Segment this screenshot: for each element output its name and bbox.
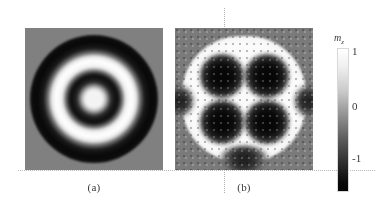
colorbar-tick-max: 1	[352, 46, 358, 57]
panel-a-field	[25, 28, 163, 170]
panel-b-image	[175, 28, 313, 170]
colorbar-title-subscript: z	[341, 38, 344, 46]
panel-a-caption: (a)	[25, 181, 163, 193]
panel-a-image	[25, 28, 163, 170]
spin-grid-highlight-overlay	[175, 28, 313, 170]
concentric-ring-pattern	[30, 35, 158, 163]
colorbar-title: mz	[334, 32, 344, 46]
colorbar-tick-mid: 0	[352, 101, 358, 112]
figure-container: (a) (b) mz 1 0 -1	[0, 0, 383, 208]
horizontal-guide-line	[18, 170, 375, 171]
panel-b-caption: (b)	[175, 181, 313, 193]
colorbar-gradient	[337, 48, 349, 192]
colorbar-tick-min: -1	[352, 153, 361, 164]
panel-b-field	[175, 28, 313, 170]
